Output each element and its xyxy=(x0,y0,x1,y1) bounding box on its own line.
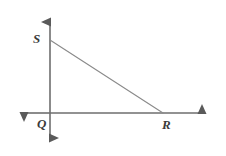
diagram-canvas: S Q R xyxy=(0,0,226,156)
vertex-label-r: R xyxy=(162,118,171,131)
geometry-diagram xyxy=(0,0,226,156)
segment-sr xyxy=(50,40,163,113)
vertex-label-s: S xyxy=(33,32,40,45)
vertex-label-q: Q xyxy=(37,117,46,130)
